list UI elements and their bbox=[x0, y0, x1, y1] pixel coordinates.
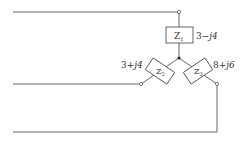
terminal-c bbox=[215, 82, 218, 85]
z2-value: 3+j4 bbox=[121, 60, 143, 70]
neutral-node bbox=[178, 57, 181, 60]
terminal-b bbox=[139, 82, 142, 85]
circuit-diagram: Z1 Z2 Z3 3−j4 3+j4 8+j6 bbox=[0, 0, 243, 150]
z3-value: 8+j6 bbox=[213, 60, 235, 70]
z1-value: 3−j4 bbox=[196, 31, 218, 41]
terminal-a bbox=[177, 10, 180, 13]
